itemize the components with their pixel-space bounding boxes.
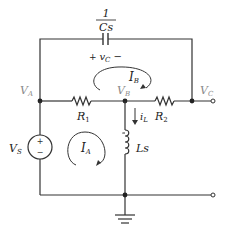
cap-impedance-num: 1	[103, 7, 110, 20]
r2-label: R2	[154, 110, 168, 124]
source-label: VS	[9, 142, 22, 156]
node-label-b: VB	[117, 84, 130, 98]
vc-label: + vC −	[89, 51, 122, 64]
circuit-svg: 1 Cs + vC − VA VB VC R1 R2 + − VS Ls iL	[0, 0, 233, 236]
node-label-a: VA	[20, 84, 33, 98]
source-minus: −	[37, 148, 44, 157]
node-label-c: VC	[200, 84, 214, 98]
resistor-r2	[155, 97, 174, 105]
inductor-label: Ls	[135, 142, 149, 155]
ground-icon	[115, 215, 135, 223]
middle-branch	[40, 97, 215, 105]
resistor-r1	[72, 97, 91, 105]
il-label: iL	[140, 111, 148, 124]
ib-label: IB	[128, 70, 139, 85]
node-ground	[123, 193, 128, 198]
circuit-diagram: 1 Cs + vC − VA VB VC R1 R2 + − VS Ls iL	[0, 0, 233, 236]
source-plus: +	[37, 137, 44, 146]
cap-impedance-den: Cs	[99, 21, 113, 34]
terminal-bottom	[211, 193, 215, 197]
terminal-c	[211, 99, 215, 103]
node-c	[190, 99, 195, 104]
ia-label: IA	[80, 141, 91, 156]
r1-label: R1	[76, 110, 90, 124]
inductor-icon	[125, 130, 129, 154]
